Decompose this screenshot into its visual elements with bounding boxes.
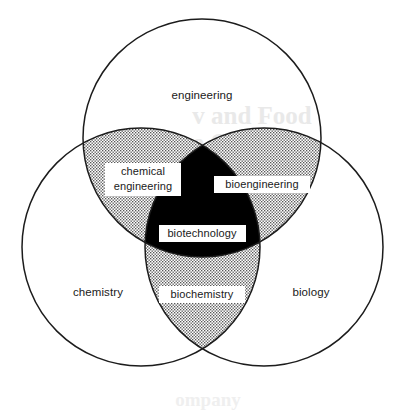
label-biotechnology-group: biotechnology xyxy=(159,225,246,242)
label-chemical-engineering-line2: engineering xyxy=(114,180,173,192)
venn-diagram-svg: v and Food se Objective ompany engineeri… xyxy=(0,0,405,414)
label-biochemistry: biochemistry xyxy=(171,288,234,300)
label-chemical-engineering-group: chemical engineering xyxy=(105,163,181,196)
label-bioengineering-group: bioengineering xyxy=(214,176,310,193)
venn-diagram-figure: v and Food se Objective ompany engineeri… xyxy=(0,0,405,414)
label-biology: biology xyxy=(292,286,329,298)
ghost-artifact-line3: ompany xyxy=(175,389,241,410)
label-biochemistry-group: biochemistry xyxy=(159,286,245,303)
label-engineering: engineering xyxy=(171,89,232,101)
label-biotechnology: biotechnology xyxy=(167,227,237,239)
ghost-artifact-line1: v and Food xyxy=(192,102,312,129)
label-bioengineering: bioengineering xyxy=(225,178,299,190)
region-biotechnology-fill xyxy=(0,0,405,414)
label-chemical-engineering-line1: chemical xyxy=(121,165,165,177)
label-chemistry: chemistry xyxy=(73,286,123,298)
